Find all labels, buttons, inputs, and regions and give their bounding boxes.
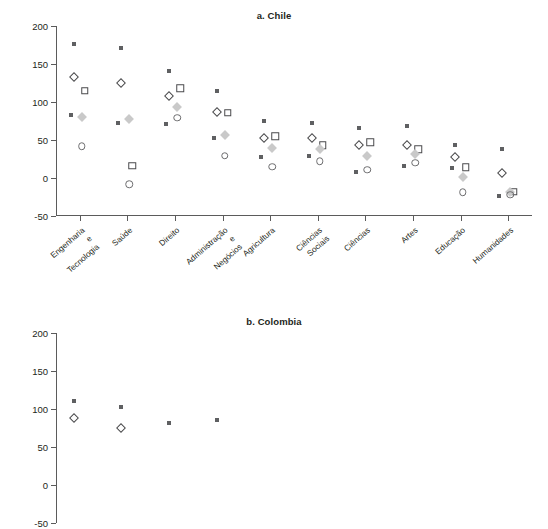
data-point-open-circle-2: [173, 114, 181, 122]
data-point-open-circle-7: [411, 159, 419, 167]
x-tick-9: [508, 216, 509, 221]
data-point-open-square-6: [367, 139, 375, 147]
data-point-gray-diamond-3: [220, 130, 230, 140]
x-axis-label-0: Engenharia e Tecnologia: [48, 225, 101, 277]
y-tick-label-colombia--50: -50: [34, 518, 48, 529]
x-tick-0: [80, 216, 81, 221]
y-tick-colombia-200: [51, 333, 56, 334]
x-tick-3: [223, 216, 224, 221]
data-point-gray-diamond-4: [267, 143, 277, 153]
y-tick-colombia-50: [51, 447, 56, 448]
data-point-dark-small-square-1: [119, 405, 123, 409]
y-tick-label-colombia-150: 150: [32, 366, 48, 377]
x-axis-label-3: Administração e Negócios: [183, 225, 244, 284]
data-point-open-diamond-1: [116, 423, 126, 433]
data-point-open-diamond-4: [259, 133, 269, 143]
data-point-open-diamond-2: [164, 91, 174, 101]
y-axis-line-colombia: [56, 333, 57, 523]
x-tick-6: [365, 216, 366, 221]
data-point-dark-small-square-low-1: [116, 121, 120, 125]
data-point-open-square-4: [271, 132, 279, 140]
data-point-open-circle-3: [221, 152, 229, 160]
data-point-dark-small-square-2: [167, 421, 171, 425]
y-tick-chile-0: [51, 178, 56, 179]
data-point-dark-small-square-low-3: [212, 136, 216, 140]
y-tick-label-colombia-0: 0: [43, 480, 48, 491]
data-point-dark-small-square-9: [500, 147, 504, 151]
plot-area-colombia: 200150100500-50: [56, 333, 532, 523]
data-point-open-diamond-1: [116, 78, 126, 88]
y-tick-chile--50: [51, 216, 56, 217]
data-point-dark-small-square-7: [405, 124, 409, 128]
data-point-dark-small-square-low-0: [69, 113, 73, 117]
x-axis-label-8: Educação: [433, 225, 468, 257]
data-point-dark-small-square-low-8: [450, 166, 454, 170]
data-point-gray-diamond-6: [362, 151, 372, 161]
data-point-open-diamond-3: [212, 107, 222, 117]
data-point-gray-diamond-2: [172, 102, 182, 112]
data-point-dark-small-square-2: [167, 69, 171, 73]
data-point-gray-diamond-8: [458, 172, 468, 182]
data-point-open-circle-6: [364, 166, 372, 174]
y-tick-label-chile-50: 50: [37, 135, 48, 146]
y-tick-colombia--50: [51, 523, 56, 524]
x-tick-2: [175, 216, 176, 221]
x-tick-1: [127, 216, 128, 221]
data-point-dark-small-square-3: [215, 418, 219, 422]
data-point-dark-small-square-3: [215, 89, 219, 93]
data-point-dark-small-square-4: [262, 119, 266, 123]
data-point-open-circle-1: [126, 180, 134, 188]
x-axis-label-7: Artes: [399, 225, 421, 246]
data-point-open-circle-5: [316, 158, 324, 166]
data-point-dark-small-square-low-5: [307, 154, 311, 158]
x-tick-8: [461, 216, 462, 221]
data-point-dark-small-square-1: [119, 46, 123, 50]
data-point-open-square-1: [129, 162, 137, 170]
data-point-gray-diamond-0: [77, 112, 87, 122]
data-point-open-diamond-0: [69, 72, 79, 82]
plot-area-chile: 200150100500-50Engenharia e TecnologiaSa…: [56, 26, 532, 216]
x-axis-label-6: Ciências: [342, 225, 373, 254]
y-tick-label-chile-150: 150: [32, 59, 48, 70]
y-tick-colombia-150: [51, 371, 56, 372]
data-point-open-diamond-8: [450, 152, 460, 162]
y-tick-colombia-0: [51, 485, 56, 486]
data-point-dark-small-square-low-4: [259, 155, 263, 159]
y-tick-label-chile-200: 200: [32, 21, 48, 32]
data-point-open-circle-0: [78, 142, 86, 150]
y-tick-label-chile--50: -50: [34, 211, 48, 222]
data-point-dark-small-square-0: [72, 42, 76, 46]
data-point-gray-diamond-1: [124, 115, 134, 125]
x-axis-label-2: Direito: [157, 225, 182, 249]
data-point-open-diamond-0: [69, 413, 79, 423]
data-point-dark-small-square-6: [357, 126, 361, 130]
data-point-dark-small-square-8: [453, 143, 457, 147]
x-axis-label-1: Saúde: [110, 225, 135, 249]
y-tick-colombia-100: [51, 409, 56, 410]
y-axis-line-chile: [56, 26, 57, 216]
x-tick-4: [270, 216, 271, 221]
x-tick-5: [318, 216, 319, 221]
x-tick-7: [413, 216, 414, 221]
y-tick-chile-50: [51, 140, 56, 141]
data-point-open-diamond-6: [354, 140, 364, 150]
data-point-dark-small-square-low-2: [164, 122, 168, 126]
x-axis-label-5: Ciências Sociais: [294, 225, 332, 262]
data-point-dark-small-square-low-9: [497, 194, 501, 198]
data-point-dark-small-square-low-7: [402, 164, 406, 168]
data-point-dark-small-square-5: [310, 121, 314, 125]
y-tick-chile-100: [51, 102, 56, 103]
panel-title-colombia: b. Colombia: [0, 316, 548, 327]
data-point-open-square-8: [462, 164, 470, 172]
y-tick-label-colombia-200: 200: [32, 328, 48, 339]
data-point-open-square-2: [176, 85, 184, 93]
data-point-open-circle-8: [459, 189, 467, 197]
panel-title-chile: a. Chile: [0, 10, 548, 21]
y-tick-label-colombia-50: 50: [37, 442, 48, 453]
x-axis-label-4: Agricultura: [241, 225, 278, 259]
data-point-dark-small-square-low-6: [354, 170, 358, 174]
y-tick-label-chile-100: 100: [32, 97, 48, 108]
data-point-open-diamond-5: [307, 134, 317, 144]
y-tick-chile-150: [51, 64, 56, 65]
y-tick-chile-200: [51, 26, 56, 27]
